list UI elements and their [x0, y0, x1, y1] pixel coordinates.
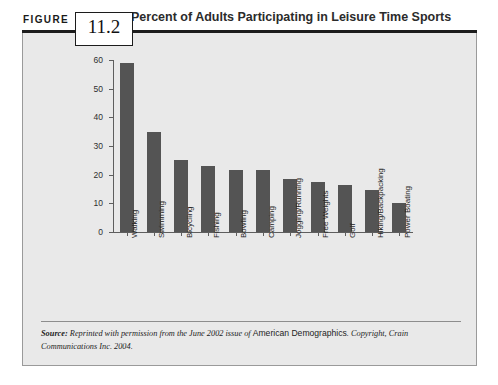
- x-axis-tick-label: Hiking/Backpacking: [376, 168, 385, 238]
- figure-container: FIGURE 11.2 Percent of Adults Participat…: [0, 0, 498, 385]
- y-axis-tick: 50: [109, 89, 113, 90]
- x-axis-tick: [208, 232, 209, 236]
- y-axis-line: [113, 60, 114, 232]
- bar: [120, 63, 134, 232]
- source-prefix: Source:: [41, 329, 68, 338]
- x-axis-tick-label: Bowling: [239, 210, 248, 238]
- x-axis-tick: [263, 232, 264, 236]
- x-axis-tick-label: Camping: [267, 206, 276, 238]
- figure-label: FIGURE: [23, 14, 69, 25]
- y-axis-tick-label: 10: [94, 198, 103, 208]
- source-divider: [41, 321, 461, 322]
- x-axis-tick: [236, 232, 237, 236]
- y-axis-tick-label: 30: [94, 141, 103, 151]
- plot-area: 0102030405060WalkingSwimmingBicyclingFis…: [113, 60, 413, 232]
- y-axis-tick-label: 0: [98, 227, 103, 237]
- y-axis-tick-label: 60: [94, 55, 103, 65]
- source-publication: American Demographics: [253, 328, 347, 338]
- y-axis-tick: 0: [109, 232, 113, 233]
- source-note: Source: Reprinted with permission from t…: [41, 327, 463, 353]
- y-axis-tick: 40: [109, 117, 113, 118]
- bar-chart: 0102030405060WalkingSwimmingBicyclingFis…: [23, 33, 478, 366]
- y-axis-tick: 60: [109, 60, 113, 61]
- x-axis-tick: [290, 232, 291, 236]
- x-axis-tick: [181, 232, 182, 236]
- y-axis-tick: 30: [109, 146, 113, 147]
- y-axis-tick-label: 20: [94, 170, 103, 180]
- x-axis-tick-label: Free Weights: [321, 191, 330, 238]
- y-axis-tick: 10: [109, 203, 113, 204]
- x-axis-tick: [372, 232, 373, 236]
- x-axis-tick-label: Power Boating: [403, 186, 412, 238]
- y-axis-tick-label: 50: [94, 84, 103, 94]
- x-axis-tick: [127, 232, 128, 236]
- x-axis-tick: [345, 232, 346, 236]
- figure-number-box: 11.2: [75, 12, 133, 46]
- x-axis-tick-label: Fishing: [212, 212, 221, 238]
- figure-panel: 0102030405060WalkingSwimmingBicyclingFis…: [22, 33, 477, 366]
- figure-header: FIGURE 11.2 Percent of Adults Participat…: [0, 6, 498, 34]
- figure-title: Percent of Adults Participating in Leisu…: [131, 10, 451, 24]
- x-axis-tick-label: Jogging/Running: [294, 178, 303, 238]
- x-axis-tick: [318, 232, 319, 236]
- y-axis-tick-label: 40: [94, 112, 103, 122]
- x-axis-tick: [154, 232, 155, 236]
- x-axis-tick-label: Bicycling: [185, 206, 194, 238]
- y-axis-tick: 20: [109, 175, 113, 176]
- x-axis-tick-label: Walking: [130, 210, 139, 238]
- x-axis-tick-label: Golf: [348, 223, 357, 238]
- x-axis-tick-label: Swimming: [157, 201, 166, 238]
- x-axis-tick: [399, 232, 400, 236]
- source-text-before: Reprinted with permission from the June …: [68, 329, 253, 338]
- figure-number: 11.2: [76, 16, 132, 38]
